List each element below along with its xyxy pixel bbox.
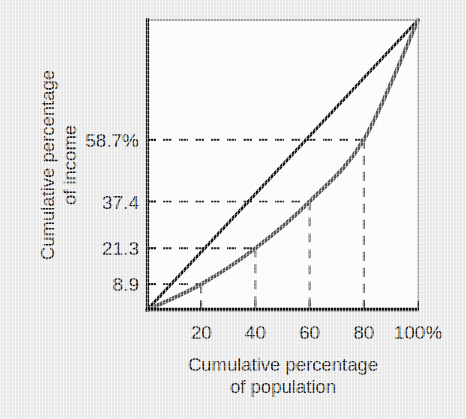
lorenz-chart-svg: 20406080100% 8.921.337.458.7% Cumulative…	[0, 0, 466, 419]
y-tick-label: 8.9	[113, 274, 139, 295]
y-tick-label: 58.7%	[85, 130, 139, 151]
y-axis-tick-labels: 8.921.337.458.7%	[85, 130, 139, 295]
y-axis-title-line-2: of income	[59, 125, 80, 205]
x-axis-title-line-2: of population	[230, 376, 336, 397]
y-tick-label: 21.3	[102, 238, 139, 259]
x-tick-label: 20	[191, 322, 212, 343]
x-tick-label: 80	[353, 322, 374, 343]
y-axis-title-line-1: Cumulative percentage	[37, 70, 58, 260]
x-tick-label: 40	[245, 322, 266, 343]
x-tick-label: 60	[299, 322, 320, 343]
x-axis-tick-labels: 20406080100%	[191, 322, 443, 343]
lorenz-curve-figure: 20406080100% 8.921.337.458.7% Cumulative…	[0, 0, 466, 419]
x-tick-label: 100%	[394, 322, 443, 343]
y-tick-label: 37.4	[102, 192, 139, 213]
x-axis-title-line-1: Cumulative percentage	[188, 354, 378, 375]
